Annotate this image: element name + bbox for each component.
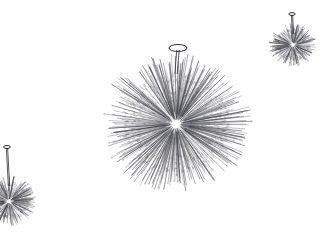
illustration-canvas	[0, 0, 321, 237]
starburst-chandelier-artwork	[0, 0, 321, 237]
